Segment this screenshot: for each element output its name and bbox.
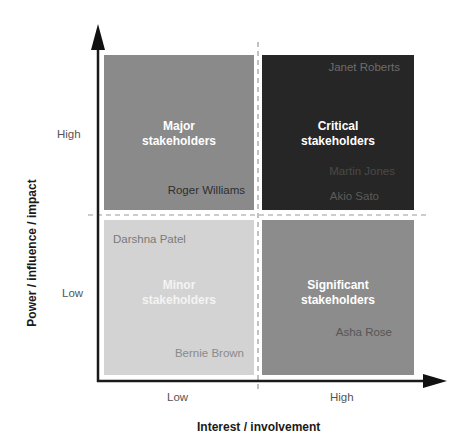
y-tick-high: High xyxy=(57,128,81,140)
axis-lines xyxy=(0,0,469,443)
y-axis-arrow-icon xyxy=(91,24,105,50)
x-tick-high: High xyxy=(330,391,354,403)
y-tick-low: Low xyxy=(62,287,83,299)
y-axis-title: Power / influence / impact xyxy=(25,179,39,326)
x-axis-arrow-icon xyxy=(423,374,447,388)
x-tick-low: Low xyxy=(167,391,188,403)
x-axis-title: Interest / involvement xyxy=(197,420,320,434)
